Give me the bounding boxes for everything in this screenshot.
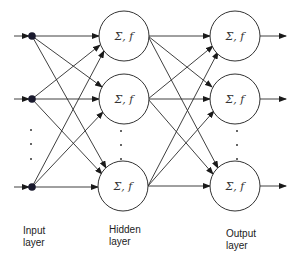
ellipsis-dot	[30, 129, 32, 131]
output-layer-label-line2: layer	[226, 240, 256, 252]
ellipsis-dot	[236, 144, 238, 146]
hidden-layer-label: Hidden layer	[109, 224, 141, 248]
ellipsis-dot	[236, 158, 238, 160]
output-node-2-label: Σ, f	[225, 93, 247, 106]
hidden-layer-label-line1: Hidden	[109, 224, 141, 236]
output-layer-label: Output layer	[226, 228, 256, 252]
input-hidden-connections	[32, 36, 106, 187]
input-arrows	[14, 36, 29, 187]
input-layer-label-line2: layer	[23, 237, 45, 249]
hidden-layer-nodes: Σ, f Σ, f Σ, f	[98, 11, 149, 211]
output-arrows	[260, 36, 286, 186]
hidden-output-connections	[148, 36, 218, 186]
hidden-node-2-label: Σ, f	[114, 93, 136, 106]
input-layer-label-line1: Input	[23, 225, 45, 237]
ellipsis-dot	[120, 144, 122, 146]
output-node-1-label: Σ, f	[225, 30, 247, 43]
output-layer-nodes: Σ, f Σ, f Σ, f	[210, 11, 260, 211]
input-layer-label: Input layer	[23, 225, 45, 249]
ellipsis-dot	[30, 158, 32, 160]
hidden-layer-label-line2: layer	[109, 236, 141, 248]
input-node-2	[28, 95, 36, 103]
input-node-1	[28, 32, 36, 40]
hidden-node-3-label: Σ, f	[113, 180, 135, 193]
hidden-node-1-label: Σ, f	[114, 30, 136, 43]
output-node-3-label: Σ, f	[225, 180, 247, 193]
ellipsis-dot	[120, 158, 122, 160]
input-layer-nodes	[28, 32, 36, 191]
neural-network-diagram: Σ, f Σ, f Σ, f Σ, f Σ, f Σ, f	[0, 0, 297, 262]
ellipsis-dot	[30, 143, 32, 145]
ellipsis-dot	[236, 130, 238, 132]
output-layer-label-line1: Output	[226, 228, 256, 240]
ellipsis-dot	[120, 130, 122, 132]
input-node-3	[28, 183, 36, 191]
